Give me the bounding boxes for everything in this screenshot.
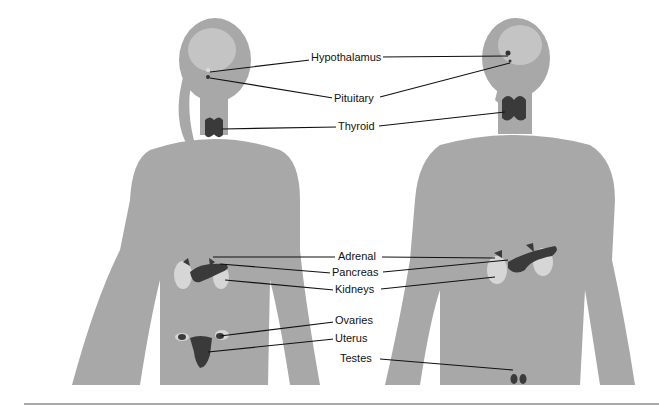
male-silhouette — [385, 18, 635, 385]
label-testes: Testes — [338, 352, 374, 365]
label-thyroid: Thyroid — [336, 120, 377, 133]
label-uterus: Uterus — [333, 332, 369, 345]
label-adrenal: Adrenal — [336, 250, 378, 263]
male-testis-right — [520, 374, 527, 384]
female-silhouette — [72, 18, 320, 385]
female-pituitary — [206, 75, 210, 79]
label-hypothalamus: Hypothalamus — [309, 51, 383, 64]
female-brain — [188, 28, 236, 72]
female-ovary-left — [178, 334, 186, 340]
female-hypothalamus — [206, 68, 210, 72]
label-kidneys: Kidneys — [333, 283, 376, 296]
male-hypothalamus — [506, 51, 511, 56]
label-pituitary: Pituitary — [332, 92, 376, 105]
male-testis-left — [511, 374, 518, 384]
male-pituitary — [509, 60, 512, 63]
male-brain — [498, 25, 542, 65]
label-pancreas: Pancreas — [330, 266, 380, 279]
label-ovaries: Ovaries — [333, 314, 375, 327]
